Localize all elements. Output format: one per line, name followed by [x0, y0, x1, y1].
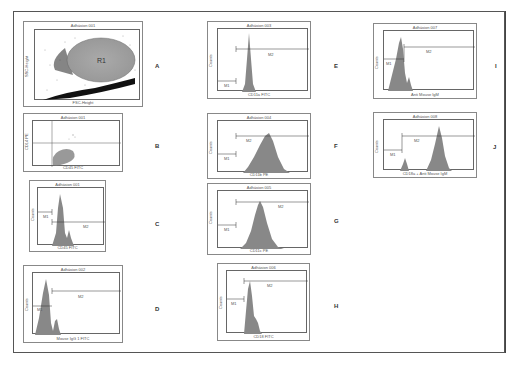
x-axis-label: CD18 FITC [218, 334, 309, 339]
x-axis-label: CD18a + Anti Mouse IgM [374, 171, 476, 176]
x-axis-label: CD45 FITC [30, 245, 105, 250]
histogram-plot: M1 M2 [32, 272, 120, 334]
histogram-plot: M1 M2 [217, 120, 308, 172]
y-axis-label: Counts [208, 211, 213, 224]
histogram-plot: M1 M2 [383, 119, 474, 170]
marker-m1: M1 [224, 156, 230, 161]
marker-m1: M1 [224, 83, 230, 88]
marker-m1: M1 [224, 227, 230, 232]
marker-m1: M1 [386, 61, 392, 66]
y-axis-label: Counts [24, 298, 29, 311]
scatter-plot: R1 [34, 29, 140, 100]
panel-e: Adhäsion 003 M1 M2 CD11a FITC Counts [207, 21, 311, 99]
marker-m2: M2 [267, 283, 273, 288]
panel-a: Adhäsion 001 R1 FSC-Height SSC-Height [23, 21, 143, 107]
frame-right-edge [505, 11, 506, 353]
marker-m2: M2 [83, 224, 89, 229]
panel-d: Adhäsion 002 M1 M2 Mouse IgG 1 FITC Coun… [23, 265, 123, 343]
x-axis-label: Anti Mouse IgM [374, 92, 476, 97]
y-axis-label: SSC-Height [24, 56, 29, 77]
panel-letter-j: J [493, 144, 496, 150]
histogram-plot: M1 M2 [217, 28, 308, 91]
y-axis-label: Counts [218, 296, 223, 309]
panel-letter-b: B [155, 143, 159, 149]
panel-f: Adhäsion 004 M1 M2 CD11b PE Counts [207, 113, 311, 179]
x-axis-label: CD45 FITC [24, 165, 122, 170]
histogram-plot: M1 M2 [217, 190, 308, 248]
panel-letter-h: H [334, 303, 338, 309]
panel-letter-g: G [334, 218, 339, 224]
y-axis-label: Counts [374, 56, 379, 69]
panel-b: Adhäsion 001 CD45 FITC CD14 PE [23, 113, 123, 172]
x-axis-label: CD11a FITC [208, 92, 310, 97]
x-axis-label: FSC-Height [24, 100, 142, 105]
y-axis-label: Counts [30, 208, 35, 221]
panel-j: Adhäsion 008 M1 M2 CD18a + Anti Mouse Ig… [373, 112, 477, 178]
panel-i: Adhäsion 007 M1 M2 Anti Mouse IgM Counts [373, 23, 477, 99]
panel-h: Adhäsion 006 M1 M2 CD18 FITC Counts [217, 263, 310, 341]
x-axis-label: CD11b PE [208, 172, 310, 177]
panel-letter-f: F [334, 143, 338, 149]
histogram-plot: M1 M2 [383, 30, 474, 90]
histogram-plot: M1 M2 [37, 187, 104, 245]
marker-m1: M1 [231, 301, 237, 306]
panel-letter-i: I [495, 63, 497, 69]
panel-g: Adhäsion 005 M1 M2 CD11c PE Counts [207, 183, 311, 255]
marker-m2: M2 [78, 294, 84, 299]
histogram-plot: M1 M2 [226, 270, 307, 333]
panel-c: Adhäsion 001 M1 M2 CD45 FITC Counts [29, 180, 106, 252]
marker-m1: M1 [37, 307, 43, 312]
scatter-plot [32, 120, 120, 166]
panel-letter-a: A [155, 63, 159, 69]
marker-m2: M2 [426, 49, 432, 54]
x-axis-label: CD11c PE [208, 248, 310, 253]
marker-m1: M1 [390, 152, 396, 157]
panel-letter-c: C [155, 221, 159, 227]
x-axis-label: Mouse IgG 1 FITC [24, 336, 122, 341]
gate-label: R1 [97, 57, 106, 64]
y-axis-label: CD14 PE [24, 133, 29, 150]
marker-m2: M2 [246, 138, 252, 143]
panel-letter-e: E [334, 63, 338, 69]
marker-m1: M1 [43, 214, 49, 219]
panel-letter-d: D [155, 306, 159, 312]
y-axis-label: Counts [208, 141, 213, 154]
y-axis-label: Counts [208, 54, 213, 67]
marker-m2: M2 [414, 138, 420, 143]
marker-m2: M2 [278, 204, 284, 209]
marker-m2: M2 [268, 52, 274, 57]
panel-title: Adhäsion 001 [24, 23, 142, 28]
y-axis-label: Counts [374, 140, 379, 153]
